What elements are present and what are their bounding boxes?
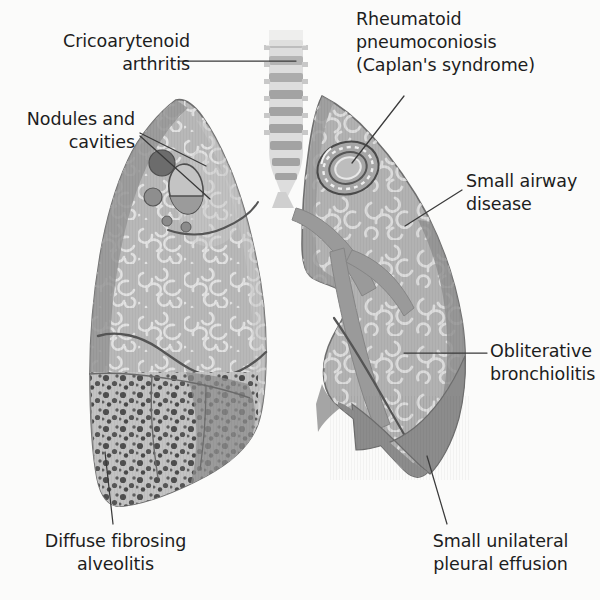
nodule-medium: [144, 188, 162, 206]
label-diffuse-fibrosing-alveolitis: Diffuse fibrosing alveolitis: [28, 530, 203, 576]
nodule-large: [149, 150, 175, 176]
label-small-airway-disease: Small airway disease: [466, 170, 591, 216]
label-rheumatoid-pneumoconiosis: Rheumatoid pneumoconiosis (Caplan's synd…: [356, 8, 586, 77]
nodule-small-1: [162, 216, 172, 226]
label-cricoarytenoid-arthritis: Cricoarytenoid arthritis: [20, 30, 190, 76]
nodule-small-2: [181, 222, 191, 232]
trachea-top-fade: [266, 28, 306, 46]
label-small-unilateral-pleural-effusion: Small unilateral pleural effusion: [418, 530, 583, 576]
label-nodules-and-cavities: Nodules and cavities: [10, 108, 135, 154]
label-obliterative-bronchiolitis: Obliterative bronchiolitis: [490, 340, 600, 386]
